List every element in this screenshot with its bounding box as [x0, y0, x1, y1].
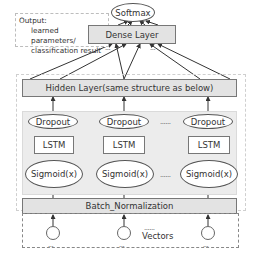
lstm-node: LSTM: [34, 136, 74, 154]
sigmoid-node: Sigmoid(x): [180, 160, 238, 188]
sigmoid-label: Sigmoid(x): [102, 169, 148, 179]
input-vector-node: [46, 226, 60, 240]
output-note-line: classification result: [19, 46, 105, 56]
sigmoid-node: Sigmoid(x): [96, 160, 154, 188]
lstm-label: LSTM: [113, 140, 136, 150]
hidden-layer-label: Hidden Layer(same structure as below): [46, 83, 214, 93]
lstm-node: LSTM: [103, 136, 145, 154]
lstm-label: LSTM: [43, 140, 66, 150]
input-vector-node: [117, 226, 131, 240]
softmax-node: Softmax: [111, 3, 155, 22]
lstm-label: LSTM: [198, 140, 221, 150]
dropout-ellipsis: ......: [160, 119, 170, 125]
vectors-label: Vectors: [142, 231, 174, 241]
dropout-label: Dropout: [191, 117, 225, 127]
dropout-label: Dropout: [107, 117, 141, 127]
batch-normalization-layer: Batch_Normalization: [22, 198, 237, 214]
dropout-node: Dropout: [183, 114, 233, 129]
sigmoid-label: Sigmoid(x): [31, 169, 77, 179]
input-vector-node: [201, 226, 215, 240]
softmax-label: Softmax: [115, 8, 150, 18]
dropout-node: Dropout: [99, 114, 149, 129]
dropout-label: Dropout: [36, 117, 70, 127]
dense-dots-right: ...: [150, 45, 155, 51]
sigmoid-label: Sigmoid(x): [186, 169, 232, 179]
hidden-layer: Hidden Layer(same structure as below): [22, 79, 237, 97]
dense-layer: Dense Layer: [88, 25, 176, 44]
vector-dots: ...: [203, 242, 208, 248]
lstm-node: LSTM: [188, 136, 230, 154]
vector-dots: ...: [119, 242, 124, 248]
dense-layer-label: Dense Layer: [105, 30, 158, 40]
dropout-node: Dropout: [28, 114, 78, 129]
sigmoid-ellipsis: ......: [160, 172, 170, 178]
dense-dots-left: ...: [105, 45, 110, 51]
batch-normalization-label: Batch_Normalization: [86, 201, 174, 211]
sigmoid-node: Sigmoid(x): [25, 160, 83, 188]
vector-dots: ...: [48, 242, 53, 248]
